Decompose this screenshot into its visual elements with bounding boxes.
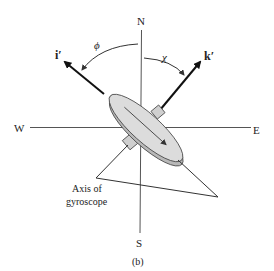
south-label: S: [136, 237, 142, 249]
north-label: N: [137, 15, 145, 27]
axis-label-line2: gyroscope: [66, 196, 108, 207]
gyroscope-diagram: N S W E i′ k′ ϕ χ Axis of gyroscope (b): [0, 0, 274, 271]
figure-caption: (b): [132, 256, 144, 268]
phi-arc: [82, 44, 138, 70]
chi-label: χ: [161, 51, 168, 63]
gyroscope-axis-line: [96, 178, 218, 197]
i-prime-label: i′: [55, 48, 62, 62]
axis-label-line1: Axis of: [72, 183, 102, 194]
east-label: E: [253, 124, 260, 136]
axis-label-leader: [96, 145, 128, 178]
west-label: W: [14, 122, 25, 134]
phi-label: ϕ: [94, 39, 100, 51]
k-prime-vector: [160, 62, 200, 110]
k-prime-label: k′: [204, 49, 214, 63]
